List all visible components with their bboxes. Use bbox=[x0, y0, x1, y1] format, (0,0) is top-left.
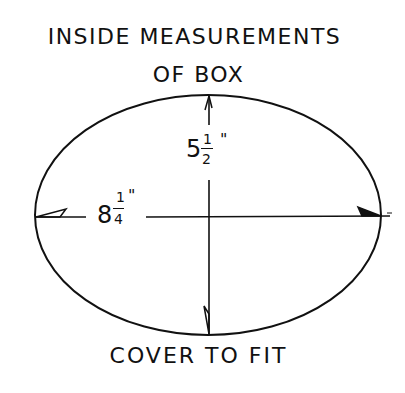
width-whole: 8 bbox=[97, 203, 112, 227]
height-inch-mark: " bbox=[220, 132, 227, 148]
width-numerator: 1 bbox=[116, 190, 125, 204]
width-dimension-line-right bbox=[146, 216, 390, 217]
height-denominator: 2 bbox=[202, 152, 211, 166]
arrowhead-right bbox=[358, 207, 381, 216]
ellipse-diagram bbox=[0, 0, 405, 393]
width-denominator: 4 bbox=[114, 212, 123, 226]
width-inch-mark: " bbox=[128, 188, 135, 204]
height-numerator: 1 bbox=[203, 132, 212, 146]
height-fraction-bar bbox=[201, 148, 213, 149]
caption: COVER TO FIT bbox=[0, 345, 401, 367]
height-whole: 5 bbox=[186, 137, 201, 161]
width-fraction-bar bbox=[113, 208, 124, 209]
arrowhead-left bbox=[36, 209, 66, 217]
